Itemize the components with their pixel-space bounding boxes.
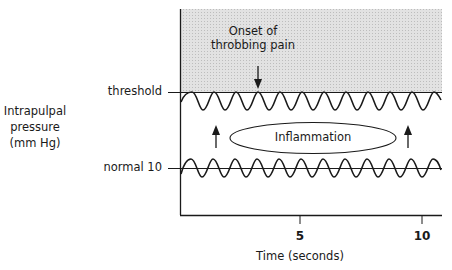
left-up-arrowhead-icon [212,125,220,135]
x-axis-label: Time (seconds) [256,249,344,263]
x-tick-label-10: 10 [414,229,431,244]
pressure-diagram: Intrapulpal pressure (mm Hg) threshold n… [0,0,452,270]
inflammation-label: Inflammation [275,130,351,144]
y-axis-label: Intrapulpal pressure (mm Hg) [0,103,70,151]
y-axis-label-line-3: (mm Hg) [0,135,70,151]
onset-annotation: Onset of throbbing pain [203,24,303,52]
x-tick-label-5: 5 [296,229,304,244]
threshold-label: threshold [108,84,162,98]
y-axis-label-line-1: Intrapulpal [0,103,70,119]
onset-line-1: Onset of [203,24,303,38]
y-axis-label-line-2: pressure [0,119,70,135]
threshold-pressure-wave [181,92,441,110]
normal-level-label: normal 10 [103,160,162,174]
onset-line-2: throbbing pain [203,38,303,52]
right-up-arrowhead-icon [404,125,412,135]
